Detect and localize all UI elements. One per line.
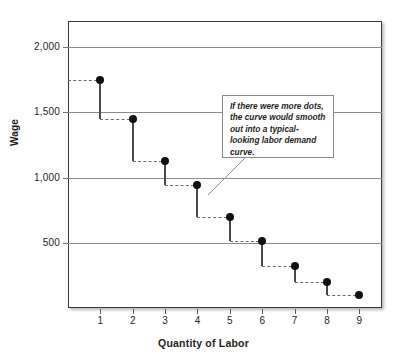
- data-point: [129, 115, 137, 123]
- x-axis-title: Quantity of Labor: [0, 337, 407, 349]
- data-point: [258, 237, 266, 245]
- x-tick-mark: [165, 309, 166, 314]
- x-tick-label: 8: [317, 315, 337, 326]
- gridline: [68, 243, 382, 244]
- x-tick-mark: [100, 309, 101, 314]
- y-tick-label: 1,000: [8, 172, 60, 183]
- y-axis-title: Wage: [9, 119, 20, 146]
- x-tick-mark: [295, 309, 296, 314]
- gridline: [68, 178, 382, 179]
- x-tick-label: 3: [155, 315, 175, 326]
- data-point: [291, 262, 299, 270]
- x-tick-mark: [327, 309, 328, 314]
- step-riser: [295, 282, 324, 283]
- plot-area: [68, 21, 382, 308]
- chart-figure: Wage 2,0001,5001,000500 123456789 Quanti…: [0, 0, 407, 362]
- x-tick-mark: [230, 309, 231, 314]
- x-tick-label: 9: [349, 315, 369, 326]
- gridline: [68, 47, 382, 48]
- step-riser: [197, 217, 226, 218]
- x-tick-mark: [359, 309, 360, 314]
- step-riser: [133, 161, 162, 162]
- y-tick-label: 1,500: [8, 106, 60, 117]
- data-point: [96, 76, 104, 84]
- x-tick-label: 6: [252, 315, 272, 326]
- x-tick-label: 5: [220, 315, 240, 326]
- x-tick-mark: [133, 309, 134, 314]
- step-riser: [68, 80, 97, 81]
- x-tick-label: 2: [123, 315, 143, 326]
- x-tick-mark: [197, 309, 198, 314]
- step-riser: [262, 266, 291, 267]
- step-stem: [196, 185, 198, 216]
- step-riser: [230, 241, 259, 242]
- y-tick-label: 500: [8, 237, 60, 248]
- annotation-callout: If there were more dots, the curve would…: [222, 95, 334, 158]
- data-point: [161, 157, 169, 165]
- data-point: [323, 278, 331, 286]
- data-point: [226, 213, 234, 221]
- y-tick-label: 2,000: [8, 41, 60, 52]
- x-tick-mark: [262, 309, 263, 314]
- x-tick-label: 1: [90, 315, 110, 326]
- step-riser: [327, 295, 356, 296]
- annotation-callout-text: If there were more dots, the curve would…: [230, 101, 327, 158]
- data-point: [355, 291, 363, 299]
- data-point: [193, 181, 201, 189]
- step-stem: [132, 119, 134, 161]
- step-stem: [99, 80, 101, 119]
- x-tick-label: 7: [285, 315, 305, 326]
- x-tick-label: 4: [187, 315, 207, 326]
- step-riser: [165, 185, 194, 186]
- step-riser: [100, 119, 129, 120]
